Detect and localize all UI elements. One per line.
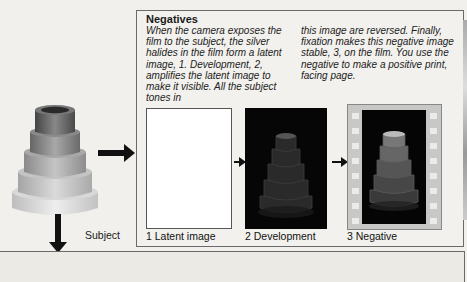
sprocket-hole <box>352 158 359 164</box>
subject-stacked-cylinder-image <box>10 100 100 220</box>
caption-latent-image: 1 Latent image <box>146 230 215 242</box>
negative-film-strip <box>347 104 442 230</box>
sprocket-hole <box>430 173 437 179</box>
arrow-stage1-to-2-icon <box>234 161 240 163</box>
development-cylinder-image <box>245 108 327 229</box>
development-image-frame <box>245 108 327 229</box>
sprocket-hole <box>352 218 359 224</box>
caption-negative: 3 Negative <box>347 230 397 242</box>
sprocket-hole <box>352 143 359 149</box>
caption-development: 2 Development <box>245 230 316 242</box>
next-section-panel <box>0 251 465 282</box>
subject-label: Subject <box>85 229 120 241</box>
arrow-down-icon <box>55 214 61 244</box>
negative-image <box>362 110 426 224</box>
latent-image-frame <box>146 108 232 229</box>
sprocket-hole <box>430 158 437 164</box>
sprocket-hole <box>430 143 437 149</box>
negative-cylinder-image <box>362 110 426 224</box>
paragraph-column-2: this image are reversed. Finally, fixati… <box>301 25 461 81</box>
section-title: Negatives <box>146 13 198 25</box>
sprocket-hole <box>430 218 437 224</box>
paragraph-column-1: When the camera exposes the film to the … <box>146 25 292 103</box>
arrow-right-to-panel-icon <box>98 150 126 156</box>
sprocket-hole <box>352 188 359 194</box>
page-edge <box>463 20 467 220</box>
sprocket-hole <box>430 188 437 194</box>
sprocket-hole <box>352 128 359 134</box>
sprocket-hole <box>430 113 437 119</box>
sprocket-hole <box>352 203 359 209</box>
sprocket-hole <box>352 173 359 179</box>
arrow-stage2-to-3-icon <box>332 161 342 163</box>
sprocket-hole <box>430 203 437 209</box>
sprocket-hole <box>430 128 437 134</box>
sprocket-hole <box>352 113 359 119</box>
